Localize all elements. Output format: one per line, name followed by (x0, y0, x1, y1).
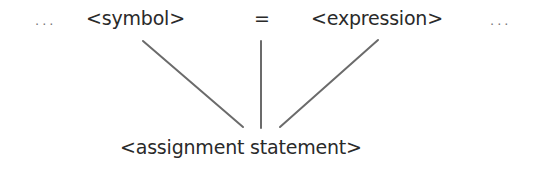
edge-expression-to-statement (280, 40, 378, 127)
edge-symbol-to-statement (143, 41, 243, 127)
assignment-statement-node: <assignment statement> (120, 138, 362, 157)
